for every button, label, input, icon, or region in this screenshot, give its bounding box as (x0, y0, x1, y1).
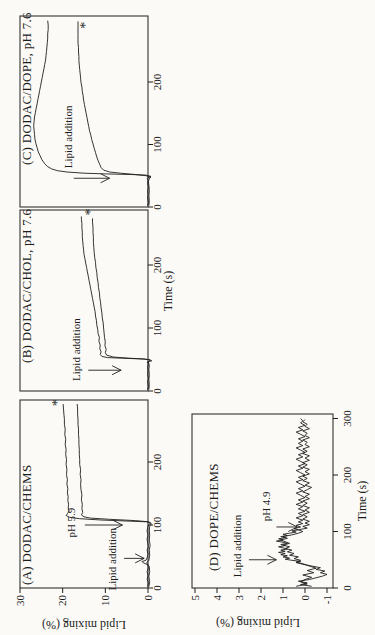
plot-frame (20, 210, 148, 391)
scanned-figure-page: 01002000102030Lipid mixing (%)(A) DODAC/… (0, 0, 375, 635)
series-dope-chems-trace1 (276, 419, 327, 587)
series-dope-chems-trace2 (281, 420, 316, 587)
y-axis-label: Lipid mixing (%) (216, 616, 300, 630)
x-tick-label: 0 (151, 585, 163, 591)
series-dodac-chol-upper (81, 217, 151, 390)
series-dodac-chol-lower-starred (93, 218, 151, 389)
panel-a-dodac-chems: 01002000102030Lipid mixing (%)(A) DODAC/… (14, 399, 163, 632)
x-axis-label: Time (s) (355, 481, 369, 522)
annotation-label: Lipid addition (62, 105, 74, 168)
panel-title: (A) DODAC/CHEMS (19, 465, 34, 585)
asterisk-marker: * (78, 22, 93, 29)
panel-title: (C) DODAC/DOPE, pH 7.6 (19, 12, 34, 165)
x-tick-label: 100 (151, 319, 163, 336)
y-tick-label: 0 (299, 595, 311, 601)
x-tick-label: 0 (341, 585, 353, 591)
y-tick-label: 4 (211, 595, 223, 601)
annotation-arrow-down (124, 554, 144, 563)
y-tick-label: 0 (142, 595, 154, 601)
y-tick-label: -1 (321, 595, 333, 604)
annotation-label: pH 4.9 (260, 491, 272, 521)
annotation-label: pH 5.9 (65, 507, 77, 537)
asterisk-marker: * (50, 399, 65, 406)
y-tick-label: 2 (255, 595, 267, 601)
y-tick-label: 1 (277, 595, 289, 601)
x-tick-label: 200 (151, 453, 163, 470)
x-tick-label: 200 (341, 466, 353, 483)
x-tick-label: 100 (151, 516, 163, 533)
y-tick-label: 3 (233, 595, 245, 601)
x-tick-label: 200 (151, 73, 163, 90)
panel-title: (B) DODAC/CHOL, pH 7.6 (19, 209, 34, 363)
lipid-mixing-figure: 01002000102030Lipid mixing (%)(A) DODAC/… (0, 0, 375, 635)
annotation-arrow-down (249, 555, 277, 564)
x-tick-label: 100 (341, 523, 353, 540)
panel-title: (D) DOPE/CHEMS (206, 463, 221, 571)
annotation-arrow-down (88, 366, 121, 375)
annotation-label: Lipid addition (231, 514, 243, 577)
x-tick-label: 0 (151, 388, 163, 394)
panel-c-dodac-dope: 0100200(C) DODAC/DOPE, pH 7.6Lipid addit… (19, 12, 163, 210)
annotation-arrow-down (85, 521, 123, 530)
annotation-arrow-down (74, 174, 110, 183)
y-tick-label: 20 (56, 595, 68, 607)
x-tick-label: 0 (151, 204, 163, 210)
x-tick-label: 100 (151, 136, 163, 153)
y-tick-label: 5 (189, 595, 201, 601)
y-tick-label: 10 (99, 595, 111, 607)
x-tick-label: 300 (341, 410, 353, 427)
panel-b-dodac-chol: 0100200Time (s)(B) DODAC/CHOL, pH 7.6Lip… (19, 209, 175, 394)
asterisk-marker: * (83, 209, 98, 216)
y-tick-label: 30 (14, 595, 26, 607)
rotated-figure: 01002000102030Lipid mixing (%)(A) DODAC/… (0, 0, 375, 635)
annotation-label: Lipid addition (70, 318, 82, 381)
x-axis-label: Time (s) (161, 271, 175, 312)
plot-frame (20, 400, 148, 588)
annotation-label: Lipid addition (106, 527, 118, 590)
y-axis-label: Lipid mixing (%) (42, 618, 126, 632)
panel-d-dope-chems: 0100200300543210-1Lipid mixing (%)Time (… (189, 410, 369, 630)
